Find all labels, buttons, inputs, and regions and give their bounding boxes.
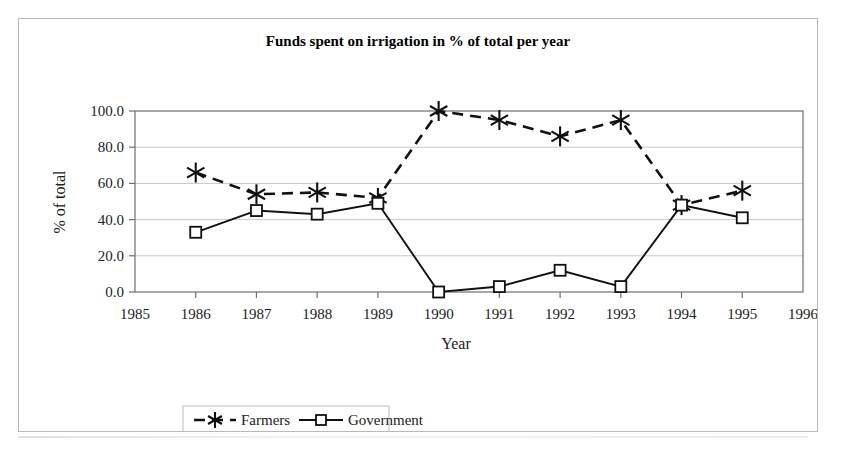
- chart-title: Funds spent on irrigation in % of total …: [266, 33, 571, 49]
- page-edge-artifact: [18, 436, 808, 438]
- x-tick-label: 1989: [363, 306, 393, 322]
- x-tick-label: 1996: [788, 306, 817, 322]
- marker-asterisk: [551, 136, 560, 141]
- marker-asterisk: [256, 189, 265, 194]
- marker-asterisk: [187, 173, 196, 178]
- marker-asterisk: [621, 120, 630, 125]
- marker-square-government: [372, 198, 383, 209]
- marker-asterisk: [560, 136, 569, 141]
- marker-square-government: [312, 209, 323, 220]
- x-tick-label: 1993: [606, 306, 636, 322]
- marker-square-government: [615, 281, 626, 292]
- gridlines: [135, 147, 803, 256]
- marker-square-government: [676, 200, 687, 211]
- y-tick-label: 40.0: [98, 212, 124, 228]
- marker-asterisk: [256, 194, 265, 199]
- x-tick-label: 1987: [241, 306, 272, 322]
- y-tick-marks: [129, 111, 135, 292]
- y-tick-label: 60.0: [98, 175, 124, 191]
- plot-area-border: [135, 111, 803, 292]
- marker-asterisk: [612, 115, 621, 120]
- marker-asterisk: [734, 186, 743, 191]
- y-tick-label: 80.0: [98, 139, 124, 155]
- series-line-farmers: [196, 111, 743, 205]
- y-axis-label: % of total: [51, 170, 68, 234]
- x-tick-label: 1986: [181, 306, 212, 322]
- x-tick-label: 1990: [424, 306, 454, 322]
- marker-asterisk: [742, 191, 751, 196]
- marker-square-government: [251, 205, 262, 216]
- marker-asterisk: [491, 120, 500, 125]
- figure-frame: Funds spent on irrigation in % of total …: [18, 18, 818, 432]
- series-line-government: [196, 203, 743, 292]
- x-tick-label: 1991: [484, 306, 514, 322]
- y-tick-label: 0.0: [105, 284, 124, 300]
- marker-square-government: [494, 281, 505, 292]
- marker-square-government: [737, 212, 748, 223]
- y-tick-label: 100.0: [90, 103, 124, 119]
- marker-asterisk: [621, 115, 630, 120]
- x-axis-label: Year: [441, 335, 471, 352]
- legend-label-farmers: Farmers: [241, 412, 290, 428]
- y-tick-labels: 0.020.040.060.080.0100.0: [90, 103, 124, 300]
- marker-asterisk: [196, 168, 205, 173]
- marker-asterisk: [187, 168, 196, 173]
- series-lines: [196, 111, 743, 292]
- marker-asterisk: [742, 186, 751, 191]
- marker-asterisk: [430, 106, 439, 111]
- x-tick-label: 1992: [545, 306, 575, 322]
- x-tick-label: 1985: [120, 306, 150, 322]
- y-tick-label: 20.0: [98, 248, 124, 264]
- marker-square-government: [555, 265, 566, 276]
- series-markers: [187, 101, 751, 298]
- legend-marker-square: [316, 415, 326, 425]
- marker-square-government: [190, 227, 201, 238]
- marker-asterisk: [248, 194, 257, 199]
- marker-asterisk: [439, 106, 448, 111]
- marker-asterisk: [499, 115, 508, 120]
- x-tick-label: 1988: [302, 306, 332, 322]
- x-tick-marks: [196, 292, 743, 298]
- x-tick-labels: 1985198619871988198919901991199219931994…: [120, 306, 817, 322]
- x-tick-label: 1994: [667, 306, 698, 322]
- x-tick-label: 1995: [727, 306, 757, 322]
- irrigation-funds-line-chart: Funds spent on irrigation in % of total …: [19, 19, 817, 431]
- marker-square-government: [433, 287, 444, 298]
- marker-asterisk: [551, 131, 560, 136]
- legend-label-government: Government: [348, 412, 424, 428]
